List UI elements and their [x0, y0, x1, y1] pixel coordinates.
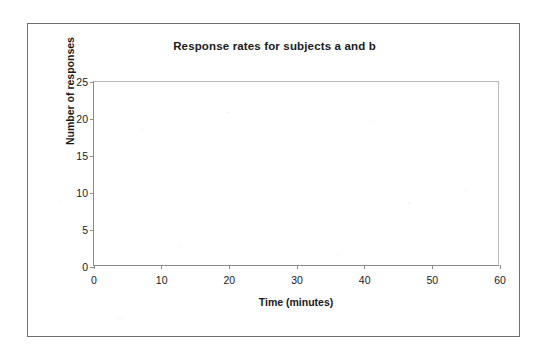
- x-axis-tick-mark: [94, 265, 95, 269]
- y-axis-tick: 5: [34, 224, 94, 236]
- x-axis-tick-mark: [500, 265, 501, 269]
- y-axis-tick-mark: [90, 156, 94, 157]
- x-axis-tick-mark: [364, 265, 365, 269]
- x-axis-tick: 30: [275, 265, 319, 286]
- x-axis-title: Time (minutes): [93, 296, 499, 308]
- y-axis-tick: 25: [34, 76, 94, 88]
- x-axis-tick: 50: [410, 265, 454, 286]
- y-axis-tick: 20: [34, 113, 94, 125]
- chart-frame: Response rates for subjects a and b Numb…: [27, 23, 520, 337]
- x-axis-tick: 20: [207, 265, 251, 286]
- plot-area: 0510152025 0102030405060: [93, 81, 499, 266]
- x-axis-tick-mark: [161, 265, 162, 269]
- x-axis-tick: 10: [140, 265, 184, 286]
- y-axis-tick: 10: [34, 187, 94, 199]
- y-axis-tick: 15: [34, 150, 94, 162]
- y-axis-tick-mark: [90, 193, 94, 194]
- y-axis-title: Number of responses: [64, 21, 78, 161]
- x-axis-tick-mark: [297, 265, 298, 269]
- plot-canvas: [94, 82, 498, 265]
- x-axis-tick: 0: [72, 265, 116, 286]
- y-axis-tick-mark: [90, 119, 94, 120]
- x-axis-tick: 40: [343, 265, 387, 286]
- scanned-page: Response rates for subjects a and b Numb…: [0, 0, 545, 359]
- x-axis-tick-mark: [229, 265, 230, 269]
- x-axis-tick: 60: [478, 265, 522, 286]
- x-axis-tick-mark: [432, 265, 433, 269]
- chart-title: Response rates for subjects a and b: [28, 40, 521, 52]
- y-axis-tick-mark: [90, 82, 94, 83]
- y-axis-tick-mark: [90, 230, 94, 231]
